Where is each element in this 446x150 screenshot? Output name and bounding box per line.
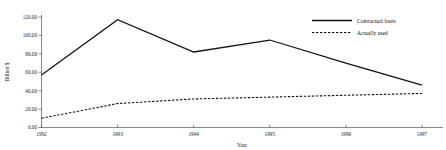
y-axis-tick-marks (39, 17, 42, 128)
y-tick-label: 0.00 (28, 124, 37, 130)
x-axis-tick-marks (42, 125, 423, 128)
chart-legend: Contractual basis Actually used (312, 18, 396, 36)
y-tick-label: 20.00 (25, 106, 37, 112)
x-axis-tick-labels: 199219931994199519961997 (36, 131, 427, 137)
x-tick-label: 1993 (112, 131, 123, 137)
x-tick-label: 1994 (189, 131, 200, 137)
x-tick-label: 1995 (265, 131, 276, 137)
x-axis-title: Year (237, 142, 247, 148)
y-tick-label: 40.00 (25, 88, 37, 94)
x-tick-label: 1997 (417, 131, 428, 137)
y-tick-label: 100.00 (23, 32, 38, 38)
legend-label-actually-used: Actually used (357, 30, 388, 36)
line-chart: 0.0020.0040.0060.0080.00100.00120.00 199… (0, 0, 446, 150)
y-axis-title: Billion $ (4, 62, 10, 81)
legend-label-contractual-basis: Contractual basis (357, 18, 396, 24)
x-tick-label: 1992 (36, 131, 47, 137)
series-line-actually-used (42, 93, 423, 118)
y-tick-label: 80.00 (25, 51, 37, 57)
y-tick-label: 120.00 (23, 14, 38, 20)
y-tick-label: 60.00 (25, 69, 37, 75)
y-axis-tick-labels: 0.0020.0040.0060.0080.00100.00120.00 (23, 14, 38, 130)
x-tick-label: 1996 (341, 131, 352, 137)
chart-container: 0.0020.0040.0060.0080.00100.00120.00 199… (0, 0, 446, 150)
